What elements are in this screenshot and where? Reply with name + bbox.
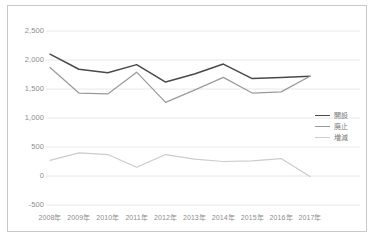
series-line-開設: [50, 54, 310, 82]
y-tick-label-2,000: 2,000: [8, 55, 44, 64]
legend-label-1: 廃止: [334, 121, 348, 132]
y-tick-label-1,500: 1,500: [8, 84, 44, 93]
gridlines: [46, 31, 360, 205]
legend-swatch-icon-0: [315, 115, 330, 116]
legend-item-2[interactable]: 増減: [315, 132, 367, 143]
legend-label-0: 開設: [334, 110, 348, 121]
y-tick-label-500: 500: [8, 142, 44, 151]
y-tick-label-1,000: 1,000: [8, 113, 44, 122]
legend-item-1[interactable]: 廃止: [315, 121, 367, 132]
series-line-廃止: [50, 68, 310, 103]
chart-legend: 開設 廃止 増減: [315, 110, 367, 143]
series-line-増減: [50, 153, 310, 177]
series-lines: [50, 54, 310, 176]
legend-label-2: 増減: [334, 132, 348, 143]
legend-swatch-icon-1: [315, 126, 330, 127]
line-chart: 2,5002,0001,5001,0005000-500 2008年2009年2…: [0, 0, 374, 238]
legend-swatch-icon-2: [315, 137, 330, 138]
x-tick-label-2017年: 2017年: [293, 212, 327, 222]
y-tick-label-2,500: 2,500: [8, 26, 44, 35]
legend-item-0[interactable]: 開設: [315, 110, 367, 121]
y-tick-label--500: -500: [8, 200, 44, 209]
y-tick-label-0: 0: [8, 171, 44, 180]
